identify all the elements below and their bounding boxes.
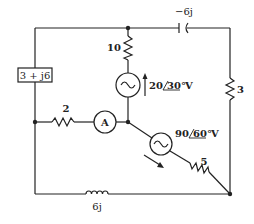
arrow-down-right-icon	[157, 162, 164, 168]
node-top	[126, 26, 130, 30]
source-2-label: 90 60° V	[175, 128, 219, 139]
svg-text:V: V	[210, 128, 219, 139]
circuit-diagram: 3 + j6 10 −6j 3 2 A 5 6j 20 30° V 90 60°…	[0, 0, 254, 224]
resistor-10	[124, 36, 132, 60]
arrow-up-icon	[143, 73, 148, 79]
sine-icon	[154, 141, 168, 147]
resistor-10-label: 10	[107, 42, 121, 53]
ammeter-label: A	[100, 117, 109, 128]
source-2-direction-arrow	[144, 155, 160, 165]
impedance-box-label: 3 + j6	[20, 70, 51, 81]
resistor-3-label: 3	[237, 84, 244, 95]
svg-text:20: 20	[149, 80, 163, 91]
resistor-2	[52, 118, 74, 126]
svg-text:60°: 60°	[193, 128, 212, 139]
inductor-6j	[86, 191, 108, 194]
svg-text:V: V	[184, 80, 193, 91]
svg-text:30°: 30°	[167, 80, 186, 91]
node-bottom-right	[228, 192, 232, 196]
svg-text:90: 90	[175, 128, 189, 139]
node-middle	[126, 120, 130, 124]
inductor-label: 6j	[92, 201, 101, 212]
resistor-3	[226, 78, 234, 100]
sine-icon	[121, 82, 135, 88]
node-left	[33, 120, 37, 124]
capacitor-label: −6j	[175, 6, 193, 17]
resistor-5-label: 5	[201, 156, 208, 167]
source-1-label: 20 30° V	[149, 80, 193, 91]
resistor-2-label: 2	[63, 103, 70, 114]
